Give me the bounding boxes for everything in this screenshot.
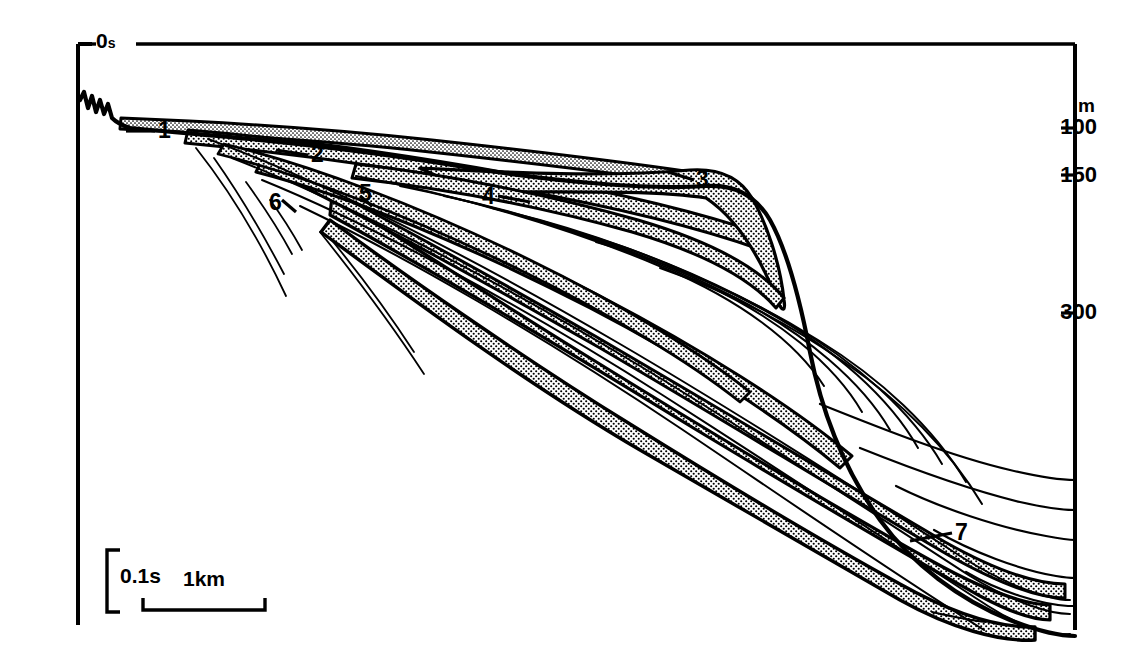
leader-6 xyxy=(282,200,296,212)
vertical-scale-bar xyxy=(107,550,120,612)
unit-label-5: 5 xyxy=(359,182,372,205)
unit-label-4: 4 xyxy=(482,185,495,208)
vertical-scale-label: 0.1s xyxy=(120,565,161,586)
horizontal-scale-label: 1km xyxy=(183,568,225,589)
depth-tick-label-300: 300 xyxy=(1060,301,1097,323)
seismic-line-drawing xyxy=(0,0,1131,653)
unit-label-6: 6 xyxy=(269,191,282,214)
depth-axis-unit-label: m xyxy=(1078,96,1095,115)
depth-axis-ticks xyxy=(1061,128,1075,313)
seismic-profile-figure: 0s m 100 150 300 0.1s 1km 1234567 xyxy=(0,0,1131,653)
horizontal-scale-bar xyxy=(143,598,265,610)
unit-label-2: 2 xyxy=(311,143,324,166)
unit-label-1: 1 xyxy=(158,119,171,142)
depth-tick-label-100: 100 xyxy=(1060,116,1097,138)
depth-tick-label-150: 150 xyxy=(1060,164,1097,186)
unit-label-7: 7 xyxy=(955,521,968,544)
unit-5-7-mass xyxy=(330,196,1050,620)
unit-label-3: 3 xyxy=(696,168,709,191)
time-zero-label: 0s xyxy=(96,30,115,51)
